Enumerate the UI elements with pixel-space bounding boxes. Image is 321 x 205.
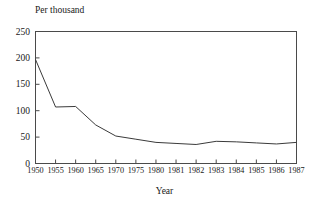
x-tick-label: 1980 [145, 166, 167, 176]
axis-frame [36, 32, 297, 164]
x-tick-label: 1983 [205, 166, 227, 176]
x-axis-ticks [36, 160, 297, 164]
x-tick-label: 1987 [286, 166, 308, 176]
x-axis-title: Year [0, 186, 321, 197]
x-axis-title-text: Year [156, 186, 174, 196]
line-chart-figure: Per thousand 050100150200250 19501955196… [0, 0, 321, 205]
y-tick-label: 250 [2, 27, 30, 37]
x-tick-label: 1982 [185, 166, 207, 176]
y-tick-label: 200 [2, 53, 30, 63]
x-tick-label: 1950 [25, 166, 47, 176]
y-tick-label: 50 [2, 132, 30, 142]
y-axis-ticks [36, 32, 40, 164]
y-tick-label: 100 [2, 106, 30, 116]
x-tick-label: 1981 [165, 166, 187, 176]
x-tick-label: 1965 [85, 166, 107, 176]
plot-border [36, 32, 297, 164]
x-tick-label: 1985 [245, 166, 267, 176]
x-tick-label: 1960 [65, 166, 87, 176]
chart-screenshot: Per thousand 050100150200250 19501955196… [0, 0, 321, 205]
data-series-line [36, 59, 297, 144]
x-tick-label: 1984 [225, 166, 247, 176]
x-tick-label: 1986 [265, 166, 287, 176]
y-tick-label: 150 [2, 79, 30, 89]
x-tick-label: 1955 [45, 166, 67, 176]
x-tick-label: 1970 [105, 166, 127, 176]
x-tick-label: 1975 [125, 166, 147, 176]
